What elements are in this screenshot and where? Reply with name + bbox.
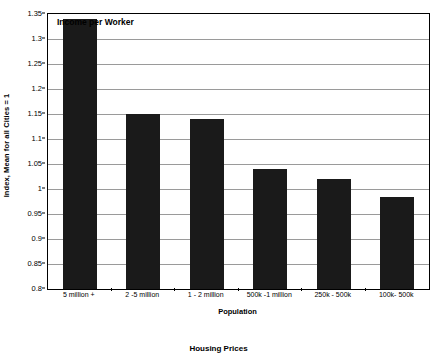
y-axis-tick-mark xyxy=(42,163,45,164)
bar xyxy=(380,197,414,290)
y-axis-tick-mark xyxy=(42,213,45,214)
y-axis-tick-label: 1.15 xyxy=(27,109,42,118)
bar xyxy=(190,119,224,289)
y-axis-tick-label: 0.9 xyxy=(32,234,42,243)
bar-series xyxy=(48,14,429,289)
x-axis-tick-label: 5 million + xyxy=(63,291,95,298)
plot-area: Income per Worker xyxy=(47,13,430,290)
y-axis-tick-label: 0.95 xyxy=(27,209,42,218)
x-axis-tick-label: 250k - 500k xyxy=(314,291,351,298)
y-axis-tick-label: 1.2 xyxy=(32,84,42,93)
y-axis-tick-label: 0.8 xyxy=(32,284,42,293)
bar xyxy=(126,114,160,289)
y-axis-tick-mark xyxy=(42,113,45,114)
chart-figure: Index, Mean for all Cities = 1 1.351.31.… xyxy=(0,0,437,361)
y-axis-title-text: Index, Mean for all Cities = 1 xyxy=(3,93,12,197)
y-axis-tick-label: 1.05 xyxy=(27,159,42,168)
x-axis-tick-mark xyxy=(174,288,175,291)
bar xyxy=(63,19,97,289)
figure-caption: Housing Prices xyxy=(0,344,437,353)
x-axis-tick-mark xyxy=(111,288,112,291)
x-axis-tick-label: 100k- 500k xyxy=(379,291,414,298)
x-axis-tick-label: 1 - 2 million xyxy=(188,291,224,298)
y-axis-tick-label: 1.25 xyxy=(27,59,42,68)
chart-title: Income per Worker xyxy=(57,17,134,27)
y-axis-tick-label: 1.3 xyxy=(32,34,42,43)
x-axis-title: Population xyxy=(47,307,428,316)
x-axis-tick-labels: 5 million +2 -5 million1 - 2 million500k… xyxy=(47,291,428,305)
y-axis-tick-labels: 1.351.31.251.21.151.11.0510.950.90.850.8 xyxy=(14,13,45,288)
y-axis-tick-mark xyxy=(42,13,45,14)
y-axis-tick-mark xyxy=(42,188,45,189)
y-axis-tick-mark xyxy=(42,263,45,264)
y-axis-tick-label: 0.85 xyxy=(27,259,42,268)
y-axis-tick-mark xyxy=(42,238,45,239)
x-axis-tick-label: 500k -1 million xyxy=(247,291,292,298)
y-axis-tick-mark xyxy=(42,138,45,139)
bar xyxy=(253,169,287,289)
x-axis-tick-mark xyxy=(365,288,366,291)
x-axis-tick-mark xyxy=(301,288,302,291)
y-axis-tick-mark xyxy=(42,63,45,64)
y-axis-tick-label: 1.1 xyxy=(32,134,42,143)
y-axis-tick-mark xyxy=(42,38,45,39)
x-axis-tick-mark xyxy=(238,288,239,291)
x-axis-tick-label: 2 -5 million xyxy=(125,291,159,298)
y-axis-tick-label: 1.35 xyxy=(27,9,42,18)
bar xyxy=(317,179,351,289)
y-axis-tick-mark xyxy=(42,88,45,89)
y-axis-title: Index, Mean for all Cities = 1 xyxy=(0,0,14,290)
y-axis-tick-mark xyxy=(42,288,45,289)
